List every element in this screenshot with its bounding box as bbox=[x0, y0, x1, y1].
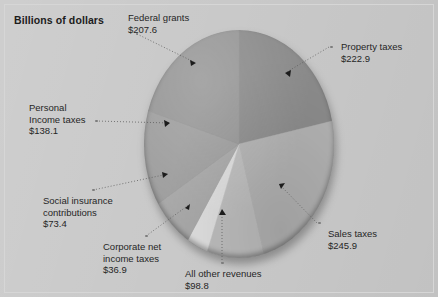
label-social-insurance-contributions: Social insurance contributions $73.4 bbox=[43, 195, 113, 230]
label-sales-taxes: Sales taxes $245.9 bbox=[328, 228, 377, 251]
label-social-insurance-value: $73.4 bbox=[43, 218, 113, 230]
label-sales-taxes-value: $245.9 bbox=[328, 240, 377, 252]
label-social-insurance-line1: Social insurance bbox=[43, 195, 113, 207]
label-federal-grants-name: Federal grants bbox=[128, 12, 189, 23]
label-property-taxes-name: Property taxes bbox=[341, 41, 402, 52]
label-corporate-net-income-taxes: Corporate net income taxes $36.9 bbox=[103, 241, 161, 276]
label-sales-taxes-name: Sales taxes bbox=[328, 228, 377, 239]
chart-page: Billions of dollars bbox=[0, 0, 438, 297]
label-property-taxes: Property taxes $222.9 bbox=[341, 41, 402, 64]
label-all-other-revenues-value: $98.8 bbox=[185, 280, 262, 292]
label-all-other-revenues-name: All other revenues bbox=[185, 268, 262, 279]
label-federal-grants-value: $207.6 bbox=[128, 24, 189, 36]
label-corporate-net-line1: Corporate net bbox=[103, 241, 161, 253]
label-federal-grants: Federal grants $207.6 bbox=[128, 12, 189, 35]
label-personal-income-line2: Income taxes bbox=[29, 114, 86, 126]
label-personal-income-taxes: Personal Income taxes $138.1 bbox=[29, 102, 86, 137]
label-corporate-net-value: $36.9 bbox=[103, 264, 161, 276]
label-corporate-net-line2: income taxes bbox=[103, 253, 161, 265]
label-social-insurance-line2: contributions bbox=[43, 207, 113, 219]
label-personal-income-line1: Personal bbox=[29, 102, 86, 114]
label-personal-income-value: $138.1 bbox=[29, 125, 86, 137]
label-property-taxes-value: $222.9 bbox=[341, 53, 402, 65]
label-all-other-revenues: All other revenues $98.8 bbox=[185, 268, 262, 291]
